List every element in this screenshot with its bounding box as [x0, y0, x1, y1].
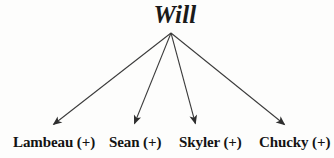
root-node-will: Will: [0, 1, 334, 29]
leaf-node-chucky: Chucky (+): [259, 132, 330, 152]
arrow-to-chucky: [171, 33, 285, 125]
tree-diagram: Will Lambeau (+) Sean (+) Skyler (+) Chu…: [0, 0, 334, 158]
arrow-to-lambeau: [54, 33, 172, 125]
arrow-to-skyler: [171, 33, 195, 124]
leaf-node-lambeau: Lambeau (+): [13, 132, 95, 152]
leaf-node-skyler: Skyler (+): [179, 132, 242, 152]
leaf-node-row: Lambeau (+) Sean (+) Skyler (+) Chucky (…: [0, 132, 334, 154]
leaf-node-sean: Sean (+): [109, 132, 161, 152]
